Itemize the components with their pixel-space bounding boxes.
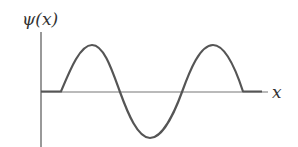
wavefunction-diagram: ψ(x) x xyxy=(0,0,298,147)
y-axis-label: ψ(x) xyxy=(22,9,58,29)
x-axis-label: x xyxy=(272,82,282,102)
